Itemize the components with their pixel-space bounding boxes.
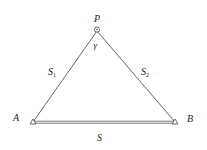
triangle-diagram: P A B γ S1 S2 S [0, 0, 207, 150]
label-s1: S1 [48, 66, 56, 78]
label-b: B [187, 113, 193, 124]
label-gamma: γ [94, 40, 98, 50]
side-bp [97, 31, 175, 122]
label-p: P [93, 13, 100, 24]
station-p-icon [94, 27, 99, 32]
label-s2: S2 [141, 66, 149, 78]
label-a: A [12, 112, 20, 123]
side-ap [33, 31, 97, 122]
label-s: S [97, 132, 102, 143]
